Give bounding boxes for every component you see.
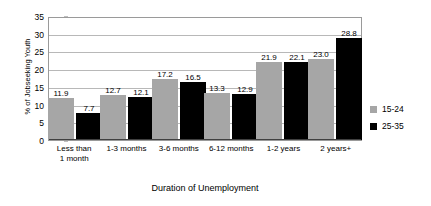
- legend-label: 25-35: [382, 122, 404, 131]
- legend: 15-2425-35: [370, 101, 428, 135]
- bar-value-label: 28.8: [329, 29, 369, 38]
- bar-group: 13.312.9: [205, 18, 257, 140]
- y-tick-label: 10: [20, 101, 44, 110]
- bar-chart: % of Jobseeking Youth 05101520253035 11.…: [0, 0, 431, 206]
- bar: 13.3: [204, 93, 230, 140]
- bar-group: 23.028.8: [309, 18, 361, 140]
- plot-area: 11.97.712.712.117.216.513.312.921.922.12…: [48, 17, 362, 141]
- bar: 12.7: [100, 95, 126, 140]
- legend-item[interactable]: 15-24: [370, 101, 428, 118]
- y-tick-label: 20: [20, 66, 44, 75]
- bar-group: 11.97.7: [49, 18, 101, 140]
- bar: 28.8: [336, 38, 362, 140]
- bar: 12.1: [128, 97, 154, 140]
- x-axis-baseline: [49, 139, 361, 140]
- y-tick-label: 30: [20, 30, 44, 39]
- bar: 23.0: [308, 59, 334, 140]
- legend-item[interactable]: 25-35: [370, 118, 428, 135]
- bar-group: 21.922.1: [257, 18, 309, 140]
- legend-label: 15-24: [382, 105, 404, 114]
- x-category-label: 6-12 months: [205, 144, 257, 163]
- bar-groups: 11.97.712.712.117.216.513.312.921.922.12…: [49, 18, 361, 140]
- bar: 21.9: [256, 62, 282, 140]
- x-axis-title: Duration of Unemployment: [48, 183, 362, 193]
- bar-group: 17.216.5: [153, 18, 205, 140]
- x-category-label: Less than1 month: [48, 144, 100, 163]
- x-category-label: 1-2 years: [257, 144, 309, 163]
- x-axis-category-labels: Less than1 month1-3 months3-6 months6-12…: [48, 144, 362, 163]
- y-tick-label: 25: [20, 48, 44, 57]
- x-category-label: 2 years+: [310, 144, 362, 163]
- legend-swatch: [370, 123, 377, 130]
- bar: 17.2: [152, 79, 178, 140]
- bar: 12.9: [232, 94, 258, 140]
- y-tick-label: 35: [20, 13, 44, 22]
- x-category-label: 3-6 months: [153, 144, 205, 163]
- bar-value-label: 11.9: [41, 89, 81, 98]
- y-tick-label: 0: [20, 137, 44, 146]
- bar: 22.1: [284, 62, 310, 140]
- bar: 7.7: [76, 113, 102, 140]
- legend-swatch: [370, 106, 377, 113]
- x-category-label: 1-3 months: [100, 144, 152, 163]
- y-axis-tick-labels: 05101520253035: [20, 17, 44, 141]
- y-tick-label: 5: [20, 119, 44, 128]
- bar-value-label: 23.0: [301, 50, 341, 59]
